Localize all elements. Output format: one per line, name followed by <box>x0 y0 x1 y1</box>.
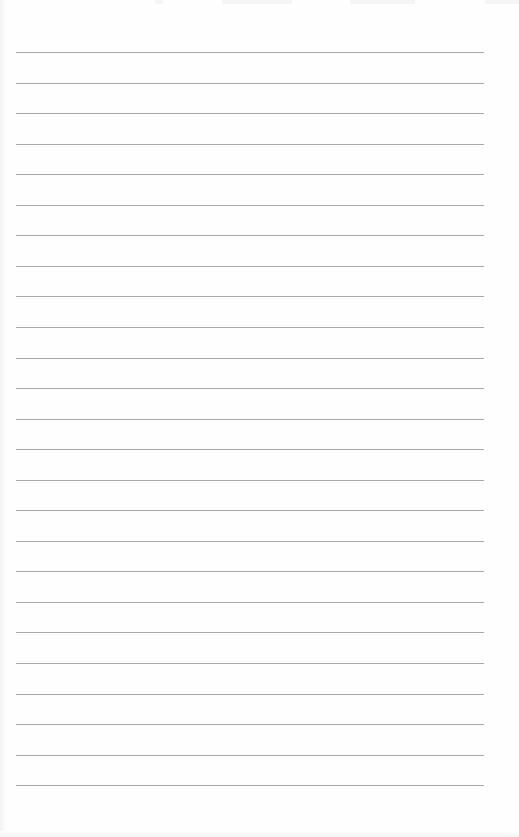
ruled-line <box>16 327 484 328</box>
ruled-line <box>16 632 484 633</box>
ruled-line <box>16 663 484 664</box>
bottom-edge <box>0 831 519 837</box>
ruled-line <box>16 266 484 267</box>
ruled-line <box>16 785 484 786</box>
ruled-line <box>16 755 484 756</box>
ruled-line <box>16 52 484 53</box>
ruled-line <box>16 419 484 420</box>
bleed-through-mark <box>350 0 415 4</box>
ruled-line <box>16 510 484 511</box>
ruled-line <box>16 571 484 572</box>
ruled-line <box>16 724 484 725</box>
bleed-through-mark <box>485 0 519 4</box>
ruled-line <box>16 449 484 450</box>
ruled-line <box>16 694 484 695</box>
ruled-line <box>16 83 484 84</box>
bleed-through-mark <box>155 0 163 4</box>
ruled-line <box>16 235 484 236</box>
ruled-line <box>16 480 484 481</box>
ruled-line <box>16 113 484 114</box>
ruled-line <box>16 358 484 359</box>
ruled-line <box>16 205 484 206</box>
ruled-line <box>16 602 484 603</box>
ruled-line <box>16 174 484 175</box>
bleed-through-mark <box>222 0 292 4</box>
lined-paper-page <box>0 0 519 837</box>
ruled-line <box>16 144 484 145</box>
ruled-line <box>16 541 484 542</box>
page-edge-shadow <box>0 0 6 837</box>
ruled-line <box>16 296 484 297</box>
ruled-line <box>16 388 484 389</box>
